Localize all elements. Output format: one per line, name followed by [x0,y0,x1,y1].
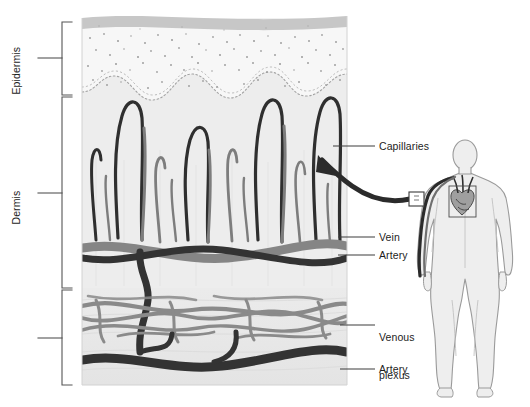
human-body-silhouette [417,140,512,397]
layer-brackets [38,22,72,385]
callout-label-artery-deep: Artery [379,363,408,376]
callout-label-venous-plexus: Venous plexus [379,306,415,406]
layer-label-dermis: Dermis [10,191,23,225]
callout-label-artery-dermal: Artery [379,249,408,262]
forearm-sample-site-box [409,192,424,206]
skin-cross-section-illustration [0,0,530,407]
callout-label-capillaries: Capillaries [379,140,429,153]
callout-label-venous-plexus-line1: Venous [379,331,415,344]
bracket-epidermis [38,22,72,95]
layer-label-epidermis: Epidermis [10,47,23,95]
bracket-dermis [38,97,72,288]
callout-label-vein: Vein [379,231,400,244]
bracket-subcutaneous [38,290,72,385]
anatomical-figure: Epidermis Dermis Subcutaneous tissue Cap… [0,0,530,407]
